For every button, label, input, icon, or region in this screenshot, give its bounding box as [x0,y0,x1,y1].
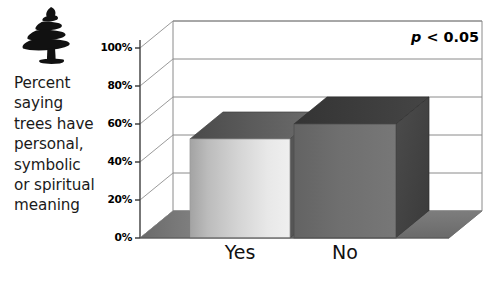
category-label-yes: Yes [200,241,280,263]
chart-plot-area: 100% 80% 60% 40% 20% 0% Yes No p < 0.05 [0,0,497,283]
chart-depth-connectors [140,21,173,238]
y-tick-label-40: 40% [96,155,132,167]
y-tick-label-80: 80% [96,79,132,91]
chart-figure: Percent saying trees have personal, symb… [0,0,497,283]
p-value-annotation: p < 0.05 [411,29,479,45]
y-tick-label-20: 20% [96,193,132,205]
y-tick-label-100: 100% [96,41,132,53]
y-tick-label-0: 0% [96,231,132,243]
y-tick-label-60: 60% [96,117,132,129]
bar-no[interactable] [294,97,429,238]
chart-floor-left-wedge [140,211,190,238]
p-comparison: < 0.05 [421,29,479,45]
p-symbol: p [411,29,421,45]
chart-y-axis [135,40,140,238]
category-label-no: No [305,241,385,263]
